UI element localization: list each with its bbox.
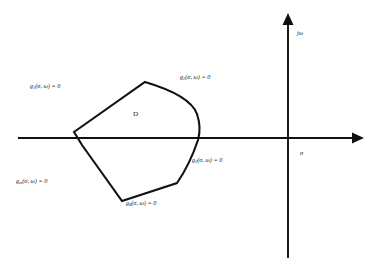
region-D-outline: [74, 82, 200, 201]
imaginary-axis: [283, 13, 294, 258]
constraint-g3-label: g3(σ, ω) = 0: [192, 157, 222, 164]
real-axis-label: σ: [300, 150, 303, 156]
imaginary-axis-label: jω: [297, 30, 303, 36]
constraint-g2-args: (σ, ω) = 0: [185, 73, 210, 80]
imaginary-axis-arrowhead: [283, 13, 294, 25]
constraint-g3-args: (σ, ω) = 0: [197, 156, 222, 163]
diagram-svg: [0, 0, 371, 269]
real-axis-arrowhead: [352, 133, 364, 144]
real-axis: [18, 133, 364, 144]
constraint-gm-args: (σ, ω) = 0: [22, 177, 47, 184]
region-D-boundary: [74, 82, 200, 201]
region-label-D: D: [133, 111, 138, 118]
constraint-g1-args: (σ, ω) = 0: [35, 82, 60, 89]
figure-canvas: D σ jω g1(σ, ω) = 0 g2(σ, ω) = 0 g3(σ, ω…: [0, 0, 371, 269]
constraint-g4-args: (σ, ω) = 0: [131, 199, 156, 206]
constraint-g4-label: g4(σ, ω) = 0: [126, 200, 156, 207]
constraint-gm-label: gm(σ, ω) = 0: [16, 178, 47, 185]
constraint-g1-label: g1(σ, ω) = 0: [30, 83, 60, 90]
constraint-g2-label: g2(σ, ω) = 0: [180, 74, 210, 81]
